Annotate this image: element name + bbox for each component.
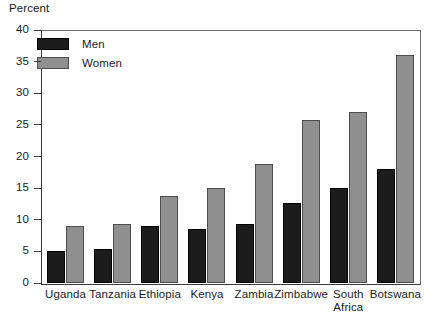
bar <box>302 120 320 283</box>
y-axis-tick <box>34 219 41 220</box>
y-axis-tick-label: 30 <box>5 87 29 99</box>
bar <box>207 188 225 283</box>
y-axis-tick-label: 15 <box>5 182 29 194</box>
y-axis-tick-label: 20 <box>5 151 29 163</box>
bar-group <box>377 30 414 283</box>
bar-group <box>330 30 367 283</box>
bar-group <box>236 30 273 283</box>
bar <box>66 226 84 283</box>
bar-group <box>283 30 320 283</box>
bar <box>349 112 367 283</box>
bar <box>47 251 65 283</box>
bar <box>330 188 348 283</box>
bar <box>160 196 178 283</box>
bar <box>377 169 395 283</box>
bar <box>236 224 254 283</box>
y-axis-tick-label: 40 <box>5 24 29 36</box>
y-axis-tick <box>34 93 41 94</box>
bar <box>141 226 159 283</box>
y-axis-tick <box>34 251 41 252</box>
y-axis-tick-label: 35 <box>5 56 29 68</box>
legend-label: Women <box>82 55 122 71</box>
bar <box>396 55 414 283</box>
y-axis-tick <box>34 156 41 157</box>
y-axis-tick-label: 25 <box>5 119 29 131</box>
bar <box>188 229 206 283</box>
legend-label: Men <box>82 36 105 52</box>
y-axis-tick-label: 5 <box>5 245 29 257</box>
y-axis-tick <box>34 61 41 62</box>
legend-swatch <box>37 38 69 50</box>
y-axis-tick <box>34 124 41 125</box>
y-axis-tick-label: 0 <box>5 277 29 289</box>
bar-group <box>188 30 225 283</box>
bar-chart: Percent UgandaTanzaniaEthiopiaKenyaZambi… <box>0 0 435 328</box>
bar <box>113 224 131 283</box>
legend-swatch <box>37 57 69 69</box>
bar <box>255 164 273 283</box>
y-axis-tick <box>34 283 41 284</box>
bar <box>94 249 112 283</box>
y-axis-title: Percent <box>9 2 49 15</box>
x-axis-category-label: Botswana <box>358 288 433 301</box>
bar <box>283 203 301 283</box>
y-axis-tick <box>34 30 41 31</box>
bar-group <box>141 30 178 283</box>
y-axis-tick <box>34 188 41 189</box>
y-axis-tick-label: 10 <box>5 214 29 226</box>
